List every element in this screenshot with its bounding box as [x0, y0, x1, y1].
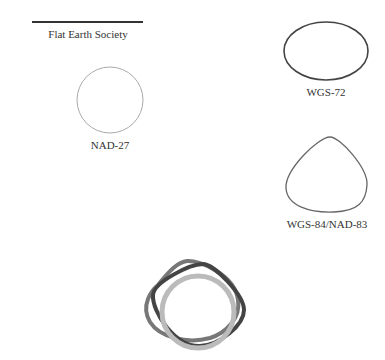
- overlay-wgs72: [146, 261, 238, 340]
- overlay-nad27: [162, 276, 234, 348]
- nad27-label: NAD-27: [91, 139, 130, 151]
- wgs72-label: WGS-72: [306, 86, 345, 98]
- wgs84-label: WGS-84/NAD-83: [287, 218, 368, 230]
- wgs84-blob: [286, 137, 367, 212]
- overlay-group: [146, 261, 244, 348]
- diagram-canvas: [0, 0, 385, 360]
- wgs72-ellipse: [284, 22, 368, 80]
- flat-earth-label: Flat Earth Society: [48, 28, 127, 40]
- nad27-circle: [77, 67, 143, 133]
